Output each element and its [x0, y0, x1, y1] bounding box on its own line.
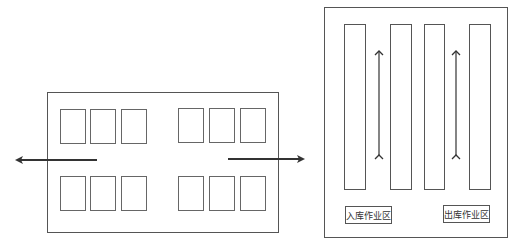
arrows-layer [0, 0, 517, 250]
